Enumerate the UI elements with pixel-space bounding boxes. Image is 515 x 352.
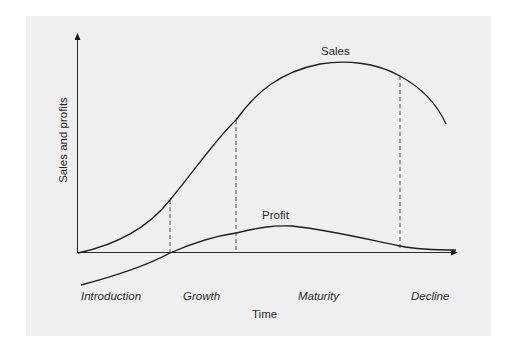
profit-curve [81, 226, 456, 285]
x-axis-label: Time [252, 309, 277, 321]
stage-introduction: Introduction [81, 291, 141, 303]
stage-growth: Growth [183, 291, 220, 303]
sales-label: Sales [321, 46, 350, 58]
stage-decline: Decline [411, 291, 449, 303]
stage-maturity: Maturity [298, 291, 339, 303]
profit-label: Profit [262, 210, 289, 222]
y-axis-label: Sales and profits [58, 97, 70, 183]
sales-curve [78, 62, 446, 253]
